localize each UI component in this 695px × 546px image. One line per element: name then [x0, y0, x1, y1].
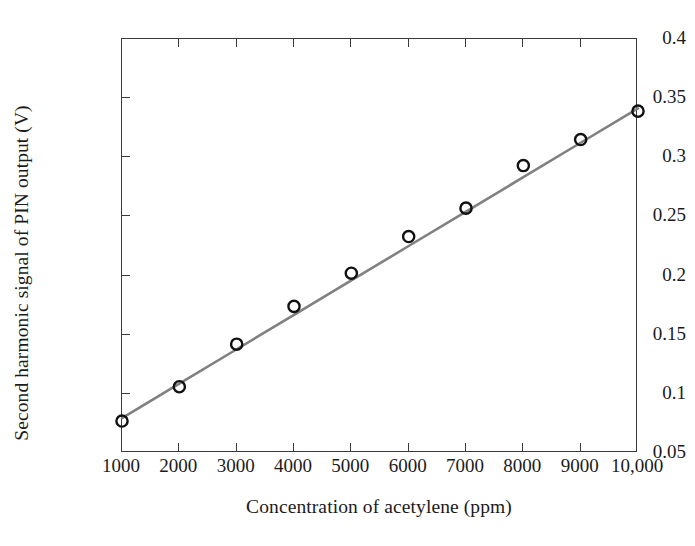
- y-axis-tick-label: 0.3: [583, 146, 695, 165]
- x-axis-tick-top: [408, 38, 409, 47]
- fit-line-series: [122, 108, 638, 418]
- data-point-marker: [518, 160, 529, 171]
- chart-figure: Second harmonic signal of PIN output (V)…: [0, 0, 695, 546]
- x-axis-tick-top: [293, 38, 294, 47]
- x-axis-tick-label: 10,000: [611, 456, 663, 475]
- x-axis-tick: [350, 443, 351, 452]
- y-axis-tick-label: 0.2: [583, 265, 695, 284]
- x-axis-tick-label: 5000: [331, 456, 369, 475]
- plot-area: [121, 38, 637, 452]
- x-axis-tick: [522, 443, 523, 452]
- y-axis-tick-label: 0.35: [583, 87, 695, 106]
- x-axis-tick-top: [350, 38, 351, 47]
- x-axis-tick-label: 3000: [217, 456, 255, 475]
- x-axis-tick: [408, 443, 409, 452]
- x-axis-tick: [465, 443, 466, 452]
- x-axis-tick-label: 6000: [389, 456, 427, 475]
- x-axis-tick-label: 7000: [446, 456, 484, 475]
- y-axis-tick: [121, 97, 130, 98]
- y-axis-tick-label: 0.15: [583, 324, 695, 343]
- y-axis-tick: [121, 393, 130, 394]
- y-axis-tick-label: 0.1: [583, 383, 695, 402]
- data-point-marker: [346, 268, 357, 279]
- x-axis-tick-label: 8000: [503, 456, 541, 475]
- x-axis-tick: [580, 443, 581, 452]
- y-axis-tick-label: 0.25: [583, 205, 695, 224]
- x-axis-tick-top: [465, 38, 466, 47]
- x-axis-tick: [293, 443, 294, 452]
- x-axis-tick-label: 2000: [159, 456, 197, 475]
- x-axis-tick-label: 9000: [561, 456, 599, 475]
- data-point-marker: [288, 301, 299, 312]
- y-axis-tick: [121, 215, 130, 216]
- plot-svg: [122, 39, 638, 453]
- y-axis-tick-label: 0.4: [583, 28, 695, 47]
- data-point-marker: [403, 231, 414, 242]
- y-axis-tick: [121, 334, 130, 335]
- x-axis-tick-label: 4000: [274, 456, 312, 475]
- x-axis-tick-label: 1000: [102, 456, 140, 475]
- x-axis-tick: [178, 443, 179, 452]
- x-axis-tick-top: [522, 38, 523, 47]
- y-axis-tick: [121, 275, 130, 276]
- x-axis-tick: [236, 443, 237, 452]
- x-axis-title: Concentration of acetylene (ppm): [121, 496, 637, 518]
- x-axis-tick-top: [580, 38, 581, 47]
- x-axis-tick-top: [236, 38, 237, 47]
- x-axis-tick-top: [178, 38, 179, 47]
- y-axis-title: Second harmonic signal of PIN output (V): [0, 0, 44, 546]
- y-axis-tick: [121, 156, 130, 157]
